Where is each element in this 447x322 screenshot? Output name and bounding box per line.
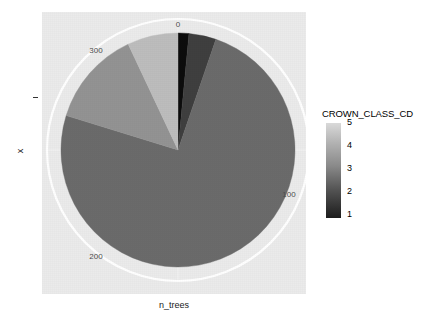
x-axis-title: n_trees <box>42 300 306 310</box>
theta-tick-label-200: 200 <box>83 252 109 261</box>
chart-root: x n_trees 0 100 200 300 CROWN_CLASS_CD 5… <box>0 0 447 322</box>
legend-tick-label: 4 <box>347 140 352 151</box>
y-axis-tick-mark <box>33 97 38 98</box>
legend-tick-label: 5 <box>347 117 352 128</box>
theta-tick-label-300: 300 <box>83 46 109 55</box>
pie-slices <box>61 33 295 267</box>
theta-tick-label-100: 100 <box>276 190 302 199</box>
legend-tick-label: 2 <box>347 186 352 197</box>
legend-tick-label: 3 <box>347 163 352 174</box>
legend-tick-list: 5 4 3 2 1 <box>341 123 441 218</box>
legend: CROWN_CLASS_CD 5 4 3 2 <box>322 108 442 219</box>
theta-tick-label-0: 0 <box>165 20 191 29</box>
legend-body: 5 4 3 2 1 <box>322 123 442 219</box>
legend-colorbar <box>326 123 341 218</box>
legend-title: CROWN_CLASS_CD <box>322 108 442 119</box>
legend-tick-mark <box>341 169 344 170</box>
legend-tick-mark <box>341 215 344 216</box>
legend-tick-mark <box>341 146 344 147</box>
legend-tick-label: 1 <box>347 209 352 220</box>
plot-panel <box>42 12 306 294</box>
legend-tick-mark <box>341 192 344 193</box>
y-axis-title: x <box>15 141 25 161</box>
pie-chart-svg <box>42 12 306 294</box>
legend-tick-mark <box>341 123 344 124</box>
